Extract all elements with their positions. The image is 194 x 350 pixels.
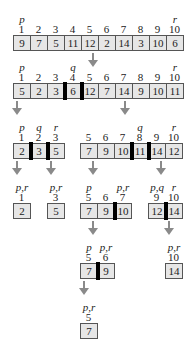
index-label: 1 <box>13 192 30 203</box>
array-cell: 11 <box>64 35 82 51</box>
split-divider <box>164 202 168 220</box>
down-arrow-icon <box>79 281 89 295</box>
array-cell: 7 <box>80 203 98 219</box>
index-label: 2 <box>30 72 47 83</box>
array-cell: 12 <box>81 35 99 51</box>
index-label: 5 <box>80 132 97 143</box>
index-label: 10 <box>165 132 182 143</box>
index-label: 10 <box>165 252 182 263</box>
pointer-label: p <box>10 62 34 73</box>
array-cell: 9 <box>132 83 150 99</box>
array-cell: 6 <box>166 35 184 51</box>
split-divider <box>29 142 33 160</box>
pointer-label: r <box>44 122 68 133</box>
index-label: 10 <box>166 24 183 35</box>
index-label: 9 <box>148 192 165 203</box>
pointer-label: r <box>163 62 187 73</box>
index-label: 6 <box>98 72 115 83</box>
array-cell: 7 <box>80 323 98 339</box>
array-cell: 11 <box>166 83 184 99</box>
array-cell: 14 <box>165 263 183 279</box>
down-arrow-icon <box>88 161 98 175</box>
index-label: 6 <box>97 192 114 203</box>
pointer-label: r <box>162 122 186 133</box>
down-arrow-icon <box>88 221 98 235</box>
array-cell: 7 <box>30 35 48 51</box>
index-label: 10 <box>166 72 183 83</box>
array-cell: 5 <box>47 35 65 51</box>
array-cell: 9 <box>13 35 31 51</box>
split-divider <box>130 142 134 160</box>
pointer-label: p,r <box>44 182 68 193</box>
array-cell: 10 <box>149 35 167 51</box>
index-label: 7 <box>114 132 131 143</box>
array-cell: 14 <box>115 35 133 51</box>
index-label: 8 <box>132 72 149 83</box>
split-divider <box>147 142 151 160</box>
array-cell: 7 <box>98 83 116 99</box>
pointer-label: q <box>61 62 85 73</box>
index-label: 7 <box>115 24 132 35</box>
down-arrow-icon <box>88 53 98 67</box>
array-cell: 2 <box>98 35 116 51</box>
down-arrow-icon <box>164 221 174 235</box>
index-label: 9 <box>149 24 166 35</box>
index-label: 3 <box>47 192 64 203</box>
index-label: 5 <box>80 252 97 263</box>
index-label: 6 <box>97 132 114 143</box>
index-label: 7 <box>115 72 132 83</box>
pointer-label: q <box>128 122 152 133</box>
array-cell: 2 <box>30 83 48 99</box>
down-arrow-icon <box>46 161 56 175</box>
index-label: 8 <box>132 24 149 35</box>
pointer-label: p,r <box>77 302 101 313</box>
array-cell: 7 <box>80 143 98 159</box>
index-label: 4 <box>64 24 81 35</box>
index-label: 2 <box>30 24 47 35</box>
split-divider <box>96 262 100 280</box>
array-cell: 2 <box>13 203 31 219</box>
pointer-label: p,r <box>10 182 34 193</box>
split-divider <box>113 202 117 220</box>
index-label: 1 <box>13 24 30 35</box>
split-divider <box>80 82 84 100</box>
down-arrow-icon <box>156 161 166 175</box>
pointer-label: p,r <box>111 182 135 193</box>
pointer-label: r <box>163 14 187 25</box>
down-arrow-icon <box>12 161 22 175</box>
array-cell: 5 <box>47 203 65 219</box>
pointer-label: r <box>162 182 186 193</box>
array-cell: 5 <box>13 83 31 99</box>
index-label: 5 <box>81 24 98 35</box>
split-divider <box>63 82 67 100</box>
pointer-label: p <box>77 182 101 193</box>
array-cell: 10 <box>149 83 167 99</box>
pointer-label: p,r <box>94 242 118 253</box>
array-cell: 9 <box>97 143 115 159</box>
pointer-label: p,r <box>162 242 186 253</box>
down-arrow-icon <box>12 101 22 115</box>
split-divider <box>46 142 50 160</box>
array-cell: 14 <box>115 83 133 99</box>
index-label: 5 <box>80 192 97 203</box>
index-label: 3 <box>47 72 64 83</box>
array-cell: 12 <box>165 143 183 159</box>
index-label: 1 <box>13 72 30 83</box>
pointer-label: p <box>10 14 34 25</box>
down-arrow-icon <box>120 101 130 115</box>
array-cell: 3 <box>132 35 150 51</box>
index-label: 1 <box>13 132 30 143</box>
index-label: 5 <box>80 312 97 323</box>
index-label: 9 <box>149 72 166 83</box>
index-label: 6 <box>98 24 115 35</box>
index-label: 3 <box>47 24 64 35</box>
